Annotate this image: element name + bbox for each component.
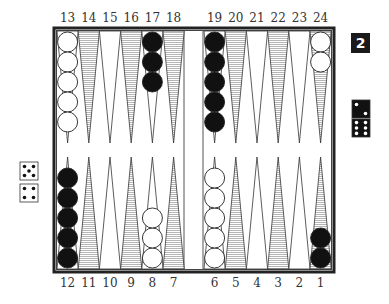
die-pip: [32, 196, 36, 200]
die-pip: [23, 187, 27, 191]
doubling-cube[interactable]: 2: [351, 33, 370, 53]
black-checker[interactable]: [58, 168, 78, 188]
white-checker[interactable]: [205, 168, 225, 188]
white-checker[interactable]: [311, 32, 331, 52]
black-checker[interactable]: [205, 112, 225, 132]
white-checker[interactable]: [142, 208, 162, 228]
backgammon-board[interactable]: [0, 0, 389, 304]
white-checker[interactable]: [58, 92, 78, 112]
black-checker[interactable]: [311, 228, 331, 248]
black-checker[interactable]: [142, 52, 162, 72]
die-pip: [355, 132, 359, 136]
white-checker[interactable]: [205, 208, 225, 228]
white-checker[interactable]: [58, 52, 78, 72]
die-pip: [32, 165, 36, 169]
white-checker[interactable]: [58, 72, 78, 92]
die-pip: [355, 126, 359, 130]
die-pip: [23, 196, 27, 200]
white-checker[interactable]: [142, 248, 162, 268]
black-checker[interactable]: [205, 52, 225, 72]
white-checker[interactable]: [58, 112, 78, 132]
black-checker[interactable]: [205, 32, 225, 52]
black-checker[interactable]: [311, 248, 331, 268]
die-pip: [32, 174, 36, 178]
black-checker[interactable]: [142, 32, 162, 52]
die-pip: [355, 121, 359, 125]
white-checker[interactable]: [311, 52, 331, 72]
white-checker[interactable]: [205, 228, 225, 248]
die-pip: [364, 132, 368, 136]
black-checker[interactable]: [58, 208, 78, 228]
die-pip: [364, 126, 368, 130]
die-pip: [23, 174, 27, 178]
die-pip: [364, 121, 368, 125]
die-pip: [32, 187, 36, 191]
die-pip: [27, 169, 31, 173]
black-checker[interactable]: [205, 92, 225, 112]
die-pip: [23, 165, 27, 169]
die-pip: [364, 112, 368, 116]
white-checker[interactable]: [205, 248, 225, 268]
die-pip: [355, 103, 359, 107]
black-checker[interactable]: [142, 72, 162, 92]
die: [20, 184, 38, 202]
black-checker[interactable]: [58, 228, 78, 248]
black-checker[interactable]: [58, 188, 78, 208]
black-checker[interactable]: [205, 72, 225, 92]
white-checker[interactable]: [58, 32, 78, 52]
die: [352, 100, 370, 118]
white-checker[interactable]: [205, 188, 225, 208]
white-checker[interactable]: [142, 228, 162, 248]
black-checker[interactable]: [58, 248, 78, 268]
